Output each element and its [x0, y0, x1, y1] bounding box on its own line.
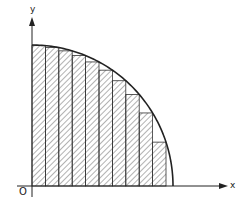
hatched-rectangle: [153, 142, 166, 186]
hatched-rectangle: [99, 70, 112, 186]
hatched-rectangle: [72, 56, 85, 186]
x-axis-arrow-icon: [219, 183, 228, 189]
x-axis-label: x: [230, 180, 235, 190]
hatched-rectangle: [126, 94, 139, 186]
hatched-rectangle: [45, 48, 58, 186]
hatched-rectangle: [86, 62, 99, 186]
hatched-rectangle: [139, 113, 152, 186]
origin-label: O: [19, 186, 27, 197]
hatched-rectangle: [59, 51, 72, 186]
y-axis-label: y: [30, 4, 35, 14]
hatched-rectangle: [32, 46, 45, 186]
y-axis-arrow-icon: [29, 17, 35, 26]
inscribed-rectangles: [32, 46, 166, 186]
hatched-rectangle: [112, 81, 125, 186]
diagram-canvas: [0, 0, 244, 210]
riemann-sum-diagram: y x O: [0, 0, 244, 210]
